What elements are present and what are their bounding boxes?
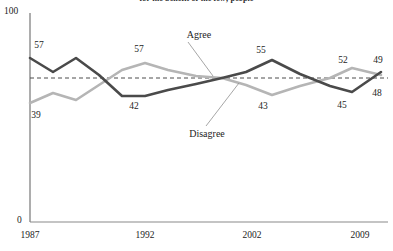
series-annotation-agree: Agree: [187, 29, 211, 40]
point-label-disagree-2006: 45: [337, 100, 347, 110]
x-axis-label-2009: 2009: [351, 230, 370, 240]
chart-container: for the benefit of the few; people 100 0…: [0, 0, 393, 251]
leader-line-agree: [188, 42, 213, 76]
point-label-disagree-1991: 42: [129, 101, 139, 111]
point-label-disagree-end: 48: [372, 88, 382, 98]
point-label-agree-1992: 57: [134, 44, 144, 54]
point-label-disagree-1987: 57: [34, 40, 44, 50]
point-label-agree-2009: 52: [338, 55, 348, 65]
x-axis-label-2002: 2002: [243, 230, 262, 240]
point-label-disagree-2002: 55: [256, 45, 266, 55]
point-label-agree-2002: 43: [258, 101, 268, 111]
series-annotation-disagree: Disagree: [189, 128, 225, 139]
leader-line-disagree: [206, 83, 239, 126]
x-axis-label-1987: 1987: [21, 230, 40, 240]
point-label-agree-1987: 39: [31, 110, 41, 120]
y-axis-label-100: 100: [4, 6, 18, 16]
y-axis-label-0: 0: [17, 215, 22, 225]
x-axis-label-1992: 1992: [136, 230, 155, 240]
point-label-agree-end: 49: [373, 55, 383, 65]
